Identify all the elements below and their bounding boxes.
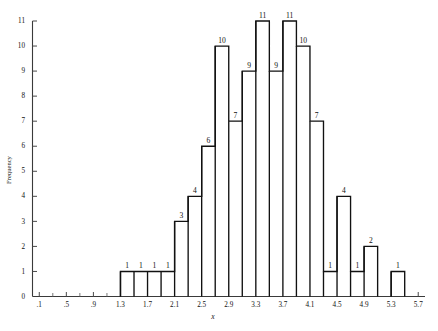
bar-value-label: 1 [152, 261, 156, 270]
bar-value-label: 1 [166, 261, 170, 270]
y-axis-tick-label: 11 [18, 17, 25, 25]
histogram-chart: 01234567891011 .1.5.91.31.72.12.52.93.33… [0, 0, 438, 331]
y-axis-tick-label: 4 [21, 192, 25, 200]
y-axis-tick-label: 5 [21, 167, 25, 175]
x-axis-tick-label: 3.7 [278, 301, 287, 309]
y-axis-title: Frequency [5, 155, 12, 184]
x-axis-tick-label: 2.9 [224, 301, 233, 309]
x-axis-title: x [210, 312, 215, 321]
bar-value-label: 3 [179, 211, 183, 220]
plot-background [0, 0, 438, 331]
x-axis-tick-label: 4.9 [360, 301, 369, 309]
y-axis-tick-label: 3 [21, 218, 25, 226]
bar-value-label: 6 [207, 136, 211, 145]
bar-value-label: 7 [234, 111, 238, 120]
y-axis-tick-label: 9 [21, 67, 25, 75]
bar-value-label: 4 [193, 186, 197, 195]
bar-value-label: 10 [299, 36, 307, 45]
histogram-svg: 01234567891011 .1.5.91.31.72.12.52.93.33… [0, 0, 438, 331]
bar-value-label: 11 [286, 11, 294, 20]
bar-value-label: 2 [369, 236, 373, 245]
x-axis-tick-label: .5 [64, 301, 70, 309]
x-axis-tick-label: .1 [37, 301, 43, 309]
y-axis-tick-label: 7 [21, 117, 25, 125]
bar-value-label: 1 [355, 261, 359, 270]
bar-value-label: 11 [259, 11, 267, 20]
x-axis-tick-label: 2.1 [170, 301, 179, 309]
bar-value-label: 9 [247, 61, 251, 70]
bar-value-label: 1 [125, 261, 129, 270]
y-axis-tick-label: 2 [21, 243, 25, 251]
y-axis-tick-label: 10 [18, 42, 26, 50]
bar-value-label: 9 [274, 61, 278, 70]
x-axis-tick-label: 3.3 [251, 301, 260, 309]
x-axis-tick-label: 4.1 [305, 301, 314, 309]
bar-value-label: 4 [342, 186, 346, 195]
x-axis-tick-label: 2.5 [197, 301, 206, 309]
y-axis-tick-label: 0 [21, 293, 25, 301]
x-axis-tick-label: 4.5 [333, 301, 342, 309]
y-axis-tick-label: 1 [21, 268, 25, 276]
y-axis-tick-label: 8 [21, 92, 25, 100]
bar-value-label: 1 [328, 261, 332, 270]
x-axis-tick-label: .9 [91, 301, 97, 309]
bar-value-label: 1 [396, 261, 400, 270]
x-axis-tick-label: 5.7 [414, 301, 423, 309]
bar-value-label: 10 [218, 36, 226, 45]
x-axis-tick-label: 1.7 [143, 301, 152, 309]
bar-value-label: 7 [315, 111, 319, 120]
bar-value-label: 1 [139, 261, 143, 270]
x-axis-tick-label: 5.3 [387, 301, 396, 309]
y-axis-tick-label: 6 [21, 142, 25, 150]
x-axis-tick-label: 1.3 [116, 301, 125, 309]
